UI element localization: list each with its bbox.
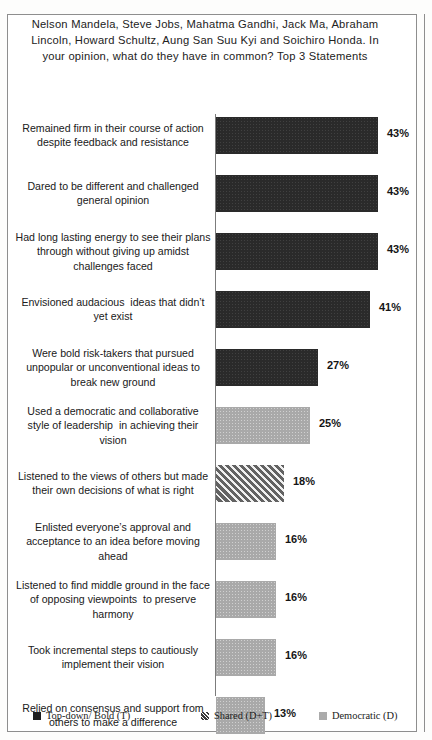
bar-value-label: 43%	[387, 127, 409, 139]
bar-category-label: Were bold risk-takers that pursued unpop…	[15, 346, 211, 389]
bar-value-label: 27%	[327, 359, 349, 371]
bar-category-label: Listened to find middle ground in the fa…	[15, 578, 211, 621]
bar-value-label: 16%	[285, 649, 307, 661]
bar-value-label: 16%	[285, 591, 307, 603]
chart-bar	[216, 407, 310, 444]
chart-bar-row: Enlisted everyone’s approval and accepta…	[8, 512, 410, 570]
legend-item-democratic: Democratic (D)	[319, 710, 397, 721]
bar-category-label: Took incremental steps to cautiously imp…	[15, 643, 211, 672]
legend-label: Democratic (D)	[332, 710, 397, 721]
chart-bar-row: Listened to the views of others but made…	[8, 454, 410, 512]
chart-bar	[216, 175, 378, 212]
legend-swatch-topdown-icon	[33, 712, 41, 720]
bar-category-label: Enlisted everyone’s approval and accepta…	[15, 520, 211, 563]
chart-bar-row: Had long lasting energy to see their pla…	[8, 222, 410, 280]
legend-item-shared: Shared (D+T)	[201, 710, 272, 721]
bar-category-label: Dared to be different and challenged gen…	[15, 179, 211, 208]
chart-title: Nelson Mandela, Steve Jobs, Mahatma Gand…	[28, 16, 382, 64]
bar-category-label: Listened to the views of others but made…	[15, 469, 211, 498]
chart-bar	[216, 233, 378, 270]
chart-bar-row: Listened to find middle ground in the fa…	[8, 570, 410, 628]
bar-value-label: 18%	[293, 475, 315, 487]
bar-value-label: 43%	[387, 185, 409, 197]
chart-bar	[216, 581, 276, 618]
bar-category-label: Had long lasting energy to see their pla…	[15, 230, 211, 273]
chart-bar	[216, 117, 378, 154]
chart-bar	[216, 639, 276, 676]
chart-bar-row: Dared to be different and challenged gen…	[8, 164, 410, 222]
bar-value-label: 41%	[379, 301, 401, 313]
scanned-page: Nelson Mandela, Steve Jobs, Mahatma Gand…	[0, 0, 432, 740]
legend-label: Shared (D+T)	[214, 710, 272, 721]
chart-bar-row: Were bold risk-takers that pursued unpop…	[8, 338, 410, 396]
bar-value-label: 43%	[387, 243, 409, 255]
chart-legend: Top-down/ Bold (T)Shared (D+T)Democratic…	[8, 710, 418, 732]
chart-bar-row: Took incremental steps to cautiously imp…	[8, 628, 410, 686]
chart-bar-row: Envisioned audacious ideas that didn’t y…	[8, 280, 410, 338]
chart-bar	[216, 523, 276, 560]
bar-category-label: Envisioned audacious ideas that didn’t y…	[15, 295, 211, 324]
legend-swatch-shared-icon	[201, 712, 209, 720]
bar-category-label: Remained firm in their course of action …	[15, 121, 211, 150]
chart-bar-row: Used a democratic and collaborative styl…	[8, 396, 410, 454]
legend-swatch-democratic-icon	[319, 712, 327, 720]
bar-value-label: 25%	[319, 417, 341, 429]
bar-value-label: 16%	[285, 533, 307, 545]
chart-bar	[216, 349, 318, 386]
bar-category-label: Used a democratic and collaborative styl…	[15, 404, 211, 447]
legend-item-topdown: Top-down/ Bold (T)	[33, 710, 130, 721]
chart-bar-row: Remained firm in their course of action …	[8, 106, 410, 164]
chart-bar	[216, 465, 284, 502]
chart-bar	[216, 291, 370, 328]
adjacent-page-edge	[424, 14, 432, 732]
legend-label: Top-down/ Bold (T)	[46, 710, 130, 721]
chart-plot-area: Remained firm in their course of action …	[8, 106, 410, 696]
